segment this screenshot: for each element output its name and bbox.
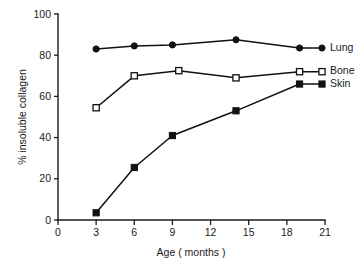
legend-marker-bone: [319, 69, 325, 75]
marker-skin: [233, 108, 239, 114]
series-markers: [93, 37, 325, 216]
marker-skin: [131, 164, 137, 170]
legend-marker-skin: [319, 81, 325, 87]
y-tick-label: 0: [45, 214, 51, 226]
marker-lung: [233, 37, 239, 43]
series-labels: LungBoneSkin: [330, 41, 355, 89]
marker-lung: [169, 42, 175, 48]
series-label-lung: Lung: [330, 41, 354, 53]
x-axis-ticks: [58, 220, 325, 225]
marker-bone: [93, 105, 99, 111]
x-tick-label: 6: [131, 226, 137, 238]
y-tick-label: 80: [39, 49, 51, 61]
x-tick-label: 21: [319, 226, 331, 238]
x-tick-label: 9: [170, 226, 176, 238]
y-tick-label: 40: [39, 131, 51, 143]
series-line-lung: [96, 40, 299, 49]
y-tick-label: 100: [33, 8, 51, 20]
legend-marker-lung: [319, 45, 325, 51]
x-tick-label: 3: [93, 226, 99, 238]
chart-figure: 020406080100 036912151821 LungBoneSkin A…: [0, 0, 357, 268]
marker-skin: [93, 210, 99, 216]
series-line-bone: [96, 71, 299, 108]
x-tick-label: 12: [205, 226, 217, 238]
marker-bone: [296, 69, 302, 75]
series-line-skin: [96, 84, 299, 213]
x-tick-label: 0: [55, 226, 61, 238]
y-tick-label: 60: [39, 90, 51, 102]
marker-skin: [296, 81, 302, 87]
x-axis-title: Age ( months ): [157, 246, 226, 258]
x-tick-label: 18: [281, 226, 293, 238]
x-axis-tick-labels: 036912151821: [55, 226, 331, 238]
marker-lung: [131, 43, 137, 49]
series-lines: [96, 40, 322, 213]
marker-bone: [131, 73, 137, 79]
marker-bone: [233, 75, 239, 81]
marker-skin: [169, 132, 175, 138]
y-tick-label: 20: [39, 172, 51, 184]
series-label-bone: Bone: [330, 64, 355, 76]
y-axis-title: % insoluble collagen: [16, 69, 28, 165]
marker-lung: [296, 45, 302, 51]
series-label-skin: Skin: [330, 77, 351, 89]
marker-bone: [176, 68, 182, 74]
y-axis-tick-labels: 020406080100: [33, 8, 51, 226]
x-tick-label: 15: [243, 226, 255, 238]
line-chart: 020406080100 036912151821 LungBoneSkin A…: [0, 0, 357, 268]
marker-lung: [93, 46, 99, 52]
